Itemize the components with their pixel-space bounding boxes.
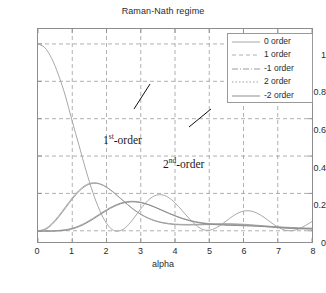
legend-item[interactable]: -1 order bbox=[228, 62, 312, 75]
xtick-label: 0 bbox=[27, 246, 47, 256]
figure-window: Raman-Nath regime 0 0.2 0.4 0.6 0.8 1 0 … bbox=[0, 0, 326, 293]
legend-line-sample-2-order bbox=[232, 81, 260, 82]
legend-label: 0 order bbox=[264, 35, 291, 48]
xtick-label: 8 bbox=[303, 246, 323, 256]
legend-line-sample-minus2-order bbox=[232, 95, 260, 96]
legend[interactable]: 0 order 1 order -1 order 2 order -2 orde… bbox=[227, 33, 313, 103]
legend-item[interactable]: 1 order bbox=[228, 48, 312, 61]
annotation-1st-tail: -order bbox=[114, 134, 142, 146]
xtick-label: 7 bbox=[269, 246, 289, 256]
annotation-second-order: 2nd-order bbox=[163, 158, 204, 170]
legend-item[interactable]: 2 order bbox=[228, 75, 312, 88]
chart-title: Raman-Nath regime bbox=[0, 6, 326, 16]
legend-label: 1 order bbox=[264, 48, 291, 61]
xtick-label: 2 bbox=[96, 246, 116, 256]
xtick-label: 5 bbox=[200, 246, 220, 256]
annotation-first-order: 1st-order bbox=[103, 134, 142, 146]
xtick-label: 1 bbox=[62, 246, 82, 256]
legend-line-sample-minus1-order bbox=[232, 68, 260, 69]
legend-label: 2 order bbox=[264, 75, 291, 88]
legend-item[interactable]: 0 order bbox=[228, 35, 312, 48]
legend-item[interactable]: -2 order bbox=[228, 89, 312, 102]
xaxis-label: alpha bbox=[0, 259, 326, 269]
annotation-leader-lines bbox=[134, 84, 211, 127]
xtick-label: 6 bbox=[234, 246, 254, 256]
legend-line-sample-1-order bbox=[232, 54, 260, 55]
annotation-2nd-tail: -order bbox=[176, 158, 204, 170]
xtick-label: 4 bbox=[165, 246, 185, 256]
legend-line-sample-0-order bbox=[232, 41, 260, 42]
legend-label: -2 order bbox=[264, 89, 294, 102]
legend-label: -1 order bbox=[264, 62, 294, 75]
xtick-label: 3 bbox=[131, 246, 151, 256]
